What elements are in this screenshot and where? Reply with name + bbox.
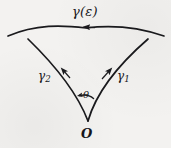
label-gamma-epsilon: γ(ε) (72, 5, 98, 18)
label-gamma-1: γ1 (117, 70, 130, 84)
left-curve-gamma-2 (28, 39, 88, 121)
figure-canvas: γ(ε) γ1 γ2 θ O (0, 0, 171, 148)
label-theta: θ (83, 90, 89, 100)
left-curve-path (28, 39, 88, 121)
left-curve-arrowhead (63, 70, 70, 78)
label-gamma-1-subscript: 1 (124, 74, 130, 84)
label-gamma-2-subscript: 2 (45, 74, 51, 84)
top-arc-arrowhead (86, 27, 95, 28)
label-vertex-o: O (81, 127, 92, 140)
right-curve-arrowhead (102, 70, 110, 79)
label-gamma-2: γ2 (38, 70, 51, 84)
